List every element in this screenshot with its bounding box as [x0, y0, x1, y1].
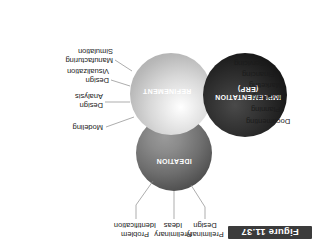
callout-documenting: Documenting [246, 117, 318, 126]
leader-refinement-1 [115, 60, 132, 71]
venn-label-ideation: IDEATION [156, 141, 191, 165]
figure-root: Figure 11.37 IDEATION REFINEMENT [0, 0, 318, 243]
callout-producing-label: Producing [252, 93, 286, 102]
callout-problem-identification-line1: Problem [121, 230, 149, 239]
callout-manufacturing-simulation-line2: Simulation [78, 47, 113, 56]
callout-problem-identification-line2: Identification [114, 221, 156, 230]
callout-planning-label: Planning [251, 105, 280, 114]
callout-problem-identification: Problem Identification [102, 220, 168, 239]
callout-financing: Financing [242, 70, 318, 79]
callout-servicing: Servicing [234, 59, 318, 68]
callout-design-visualization-line2: Visualization [67, 67, 109, 76]
leader-refinement-2 [111, 80, 130, 86]
callout-manufacturing-simulation-line1: Manufacturing [65, 56, 113, 65]
leader-refinement-4 [106, 117, 134, 127]
callout-manufacturing-simulation: Manufacturing Simulation [65, 46, 113, 65]
callout-modeling: Modeling [73, 123, 103, 132]
callout-modeling-label: Modeling [73, 123, 103, 132]
leader-ideation-1 [191, 185, 205, 219]
callout-design-visualization-line1: Design [86, 76, 109, 85]
leader-ideation-3 [136, 181, 153, 219]
callout-servicing-label: Servicing [234, 59, 265, 68]
venn-label-refinement: REFINEMENT [143, 87, 200, 101]
figure-caption-label: Figure 11.37 [241, 228, 298, 238]
callout-marketing-label: Marketing [249, 81, 282, 90]
callout-planning: Planning [251, 105, 318, 114]
callout-producing: Producing [252, 93, 318, 102]
callout-design-analysis: Design Analysis [75, 91, 103, 110]
callout-design-analysis-line1: Design [80, 101, 103, 110]
callout-financing-label: Financing [242, 70, 275, 79]
callout-marketing: Marketing [249, 81, 318, 90]
callout-design-analysis-line2: Analysis [75, 92, 103, 101]
figure-caption: Figure 11.37 [228, 226, 312, 239]
callout-documenting-label: Documenting [246, 117, 290, 126]
callout-design-visualization: Design Visualization [67, 66, 109, 85]
venn-circle-refinement[interactable]: REFINEMENT [130, 53, 212, 135]
